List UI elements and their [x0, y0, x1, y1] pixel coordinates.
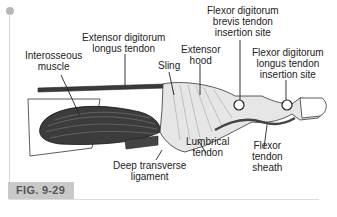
label-flexor-digitorum-brevis-insertion: Flexor digitorum brevis tendon insertion… — [207, 5, 279, 38]
label-extensor-hood: Extensor hood — [181, 44, 220, 66]
label-flexor-tendon-sheath: Flexor tendon sheath — [252, 140, 283, 173]
figure-frame: Extensor digitorum longus tendon Interos… — [0, 0, 337, 217]
label-sling: Sling — [158, 60, 180, 71]
leader-deep-transverse — [156, 150, 162, 160]
label-deep-transverse-ligament: Deep transverse ligament — [113, 160, 186, 182]
label-flexor-digitorum-longus-insertion: Flexor digitorum longus tendon insertion… — [252, 47, 324, 80]
figure-number: FIG. 9-29 — [16, 184, 65, 196]
label-lumbrical-tendon: Lumbrical tendon — [186, 136, 229, 158]
label-interosseous-muscle: Interosseous muscle — [25, 50, 82, 72]
label-extensor-digitorum-longus-tendon: Extensor digitorum longus tendon — [82, 32, 165, 54]
